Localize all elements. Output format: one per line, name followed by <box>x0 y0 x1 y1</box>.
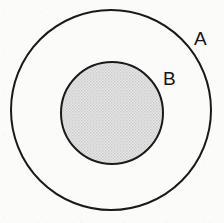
set-b-label: B <box>163 69 176 88</box>
venn-diagram-canvas <box>0 0 224 223</box>
set-b-circle <box>61 62 163 164</box>
euler-diagram: A B <box>0 0 224 223</box>
set-a-label: A <box>194 29 207 48</box>
